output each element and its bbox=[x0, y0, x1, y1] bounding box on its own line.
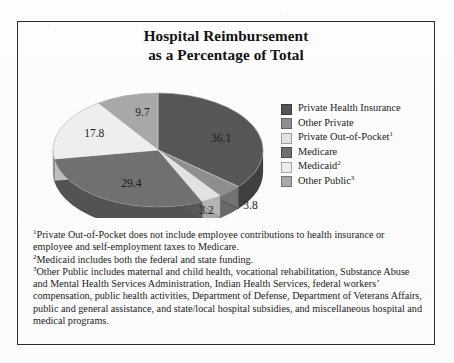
pie-label-4: 17.8 bbox=[84, 127, 104, 139]
footnote-list: 1Private Out-of-Pocket does not include … bbox=[33, 229, 425, 327]
footnote-2: 2Medicaid includes both the federal and … bbox=[33, 254, 425, 266]
legend-item-5: Other Public3 bbox=[281, 174, 433, 189]
legend-item-3: Medicare bbox=[281, 145, 433, 160]
legend-swatch-icon bbox=[281, 176, 292, 187]
legend-item-1: Other Private bbox=[281, 116, 433, 131]
legend-swatch-icon bbox=[281, 133, 292, 144]
pie-label-2: 3.2 bbox=[199, 204, 214, 216]
pie-label-1: 3.8 bbox=[243, 199, 258, 211]
legend-swatch-icon bbox=[281, 162, 292, 173]
pie-label-0: 36.1 bbox=[211, 132, 231, 144]
legend-swatch-icon bbox=[281, 118, 292, 129]
pie-slices-group bbox=[53, 93, 263, 218]
legend-item-0: Private Health Insurance bbox=[281, 101, 433, 116]
legend-label: Private Health Insurance bbox=[298, 101, 401, 114]
title-line-2: as a Percentage of Total bbox=[17, 45, 435, 64]
footnote-3: 3Other Public includes maternal and chil… bbox=[33, 266, 425, 327]
figure-title: Hospital Reimbursement as a Percentage o… bbox=[17, 26, 435, 64]
legend-label: Private Out-of-Pocket1 bbox=[298, 130, 393, 143]
chart-legend: Private Health InsuranceOther PrivatePri… bbox=[281, 101, 433, 189]
legend-label: Medicaid2 bbox=[298, 159, 341, 172]
legend-item-4: Medicaid2 bbox=[281, 159, 433, 174]
legend-item-2: Private Out-of-Pocket1 bbox=[281, 130, 433, 145]
title-line-1: Hospital Reimbursement bbox=[17, 26, 435, 45]
legend-label: Medicare bbox=[298, 145, 337, 158]
legend-label: Other Private bbox=[298, 116, 354, 129]
pie-label-3: 29.4 bbox=[121, 177, 141, 189]
legend-label: Other Public3 bbox=[298, 174, 354, 187]
footnote-1: 1Private Out-of-Pocket does not include … bbox=[33, 229, 425, 254]
pie-label-5: 9.7 bbox=[135, 106, 150, 118]
legend-swatch-icon bbox=[281, 147, 292, 158]
legend-swatch-icon bbox=[281, 104, 292, 115]
